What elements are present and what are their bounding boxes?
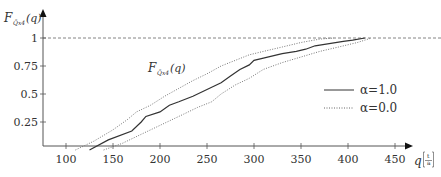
x-axis-label: q bbox=[414, 154, 422, 168]
x-tick-label: 250 bbox=[197, 153, 218, 166]
curve-label: F bbox=[147, 61, 157, 75]
legend-label-alpha-0: α=0.0 bbox=[360, 101, 397, 115]
series-alpha-0-line bbox=[75, 38, 334, 150]
cdf-chart: 1001502002503003504004500.250.50.751 F Q… bbox=[0, 0, 441, 177]
legend-label-alpha-1: α=1.0 bbox=[360, 83, 397, 97]
x-axis-unit-den: a bbox=[427, 159, 431, 166]
x-axis-arrow-icon bbox=[405, 143, 413, 150]
x-tick-label: 350 bbox=[291, 153, 312, 166]
x-tick-label: 300 bbox=[244, 153, 265, 166]
y-axis-label-arg: (q) bbox=[26, 12, 42, 25]
y-axis-label: F bbox=[3, 11, 13, 25]
series-group bbox=[75, 38, 371, 150]
x-axis-unit-num: t bbox=[427, 152, 430, 159]
x-tick-label: 450 bbox=[385, 153, 406, 166]
y-tick-label: 0.5 bbox=[21, 88, 39, 101]
x-tick-label: 400 bbox=[338, 153, 359, 166]
series-alpha-1-line bbox=[90, 38, 365, 150]
y-tick-label: 1 bbox=[31, 32, 38, 45]
series-alpha-0-line bbox=[104, 38, 372, 150]
curve-label-sub: Q̃x4 bbox=[157, 69, 169, 76]
y-tick-label: 0.75 bbox=[14, 60, 39, 73]
legend: α=1.0 α=0.0 bbox=[324, 83, 397, 115]
y-tick-label: 0.25 bbox=[14, 116, 39, 129]
x-tick-label: 200 bbox=[150, 153, 171, 166]
curve-label-arg: (q) bbox=[170, 62, 186, 75]
y-axis-label-sub: Q̃x4 bbox=[13, 19, 25, 26]
x-tick-label: 150 bbox=[103, 153, 124, 166]
x-tick-label: 100 bbox=[56, 153, 77, 166]
